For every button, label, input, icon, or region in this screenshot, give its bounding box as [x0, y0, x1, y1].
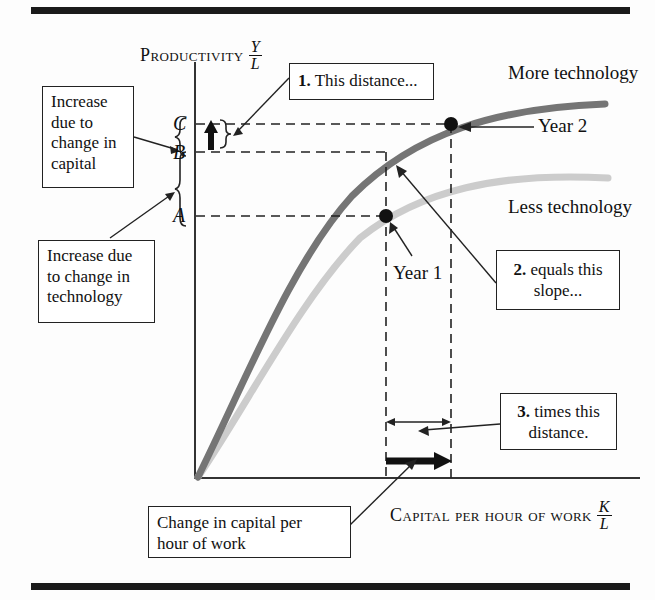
tick-label-a: A [173, 204, 185, 227]
callout-capital-line-3: change in [51, 133, 125, 154]
callout-step-3-line-2: distance. [509, 423, 608, 444]
leader-year-1 [394, 228, 412, 256]
curve-label-more-technology: More technology [508, 62, 638, 84]
callout-step-3-line-1: 3. times this [509, 402, 608, 423]
point-year-1 [379, 209, 393, 223]
leader-step-1-arrowhead [233, 127, 243, 136]
callout-step-2-line-2: slope... [505, 281, 611, 302]
x-axis-label: Capital per hour of workKL [390, 500, 612, 533]
leader-technology-box [110, 194, 172, 238]
curve-label-less-technology: Less technology [508, 196, 632, 218]
y-axis-fraction: YL [249, 39, 262, 72]
callout-change-capital-line-1: Change in capital per [157, 513, 342, 534]
callout-increase-due-to-change-in-capital: Increase due to change in capital [42, 86, 134, 188]
leader-technology-arrowhead [165, 192, 175, 201]
callout-increase-due-to-change-in-technology: Increase due to change in technology [38, 240, 155, 323]
callout-step-1-text: This distance... [311, 71, 418, 90]
tick-label-b: B [173, 141, 185, 164]
point-label-year-1: Year 1 [393, 262, 442, 284]
callout-capital-line-4: capital [51, 154, 125, 175]
distance-measure-arrow [386, 418, 451, 426]
y-axis-label: ProductivityYL [140, 40, 262, 73]
point-label-year-2: Year 2 [538, 115, 587, 137]
callout-technology-line-3: technology [47, 287, 146, 308]
callout-capital-line-2: due to [51, 113, 125, 134]
x-axis-fraction: KL [597, 499, 612, 532]
callout-technology-line-1: Increase due [47, 246, 146, 267]
tick-label-c: C [173, 112, 186, 135]
callout-change-in-capital-per-hour-of-work: Change in capital per hour of work [148, 506, 351, 558]
callout-step-3: 3. times this distance. [500, 393, 617, 450]
right-arrow-capital-change [386, 452, 452, 470]
callout-step-2-number: 2. [513, 260, 526, 279]
callout-step-2-line-1: 2. equals this [505, 260, 611, 281]
point-year-2 [444, 117, 458, 131]
callout-technology-line-2: to change in [47, 267, 146, 288]
callout-step-2-text: equals this [526, 260, 603, 279]
leader-step-3 [424, 424, 500, 430]
callout-step-3-text: times this [530, 402, 600, 421]
callout-step-2: 2. equals this slope... [496, 250, 620, 310]
figure-container: ProductivityYL Capital per hour of workK… [0, 0, 655, 600]
callout-change-capital-line-2: hour of work [157, 534, 342, 555]
callout-capital-line-1: Increase [51, 92, 125, 113]
leader-step-3-arrowhead [418, 426, 429, 436]
callout-step-3-number: 3. [517, 402, 530, 421]
callout-step-1: 1. This distance... [289, 63, 434, 100]
callout-step-1-number: 1. [298, 71, 311, 90]
